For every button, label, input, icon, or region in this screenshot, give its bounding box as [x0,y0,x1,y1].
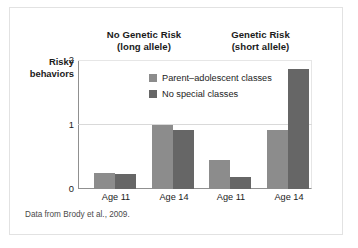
bar [267,130,288,189]
bar [115,174,136,189]
x-tick-label: Age 11 [210,192,252,203]
y-tick-label: 1 [62,120,74,129]
bar [152,125,173,190]
bar [209,160,230,189]
legend: Parent–adolescent classes No special cla… [149,71,299,103]
y-axis-label-line2: behaviors [18,68,74,80]
group-header-line1: No Genetic Risk [89,29,199,41]
x-tick-label: Age 14 [153,192,195,203]
legend-item-no-special-classes: No special classes [149,87,299,100]
group-header-genetic-risk: Genetic Risk (short allele) [208,29,313,53]
source-note: Data from Brody et al., 2009. [25,210,130,220]
x-tick-label: Age 14 [268,192,310,203]
group-header-line1: Genetic Risk [208,29,313,41]
group-header-line2: (long allele) [89,41,199,53]
y-tick-label: 2 [62,55,74,64]
legend-label: Parent–adolescent classes [162,73,272,83]
y-tick-label: 0 [62,184,74,193]
legend-label: No special classes [162,89,238,99]
legend-swatch-icon [149,74,157,82]
bar [173,130,194,189]
bar [94,173,115,189]
group-header-no-genetic-risk: No Genetic Risk (long allele) [89,29,199,53]
group-header-line2: (short allele) [208,41,313,53]
bar [230,177,251,189]
legend-swatch-icon [149,90,157,98]
legend-item-parent-adolescent-classes: Parent–adolescent classes [149,71,299,84]
x-axis-tick-labels: Age 11Age 14Age 11Age 14 [78,192,312,206]
figure-card: No Genetic Risk (long allele) Genetic Ri… [9,7,343,235]
x-tick-label: Age 11 [95,192,137,203]
